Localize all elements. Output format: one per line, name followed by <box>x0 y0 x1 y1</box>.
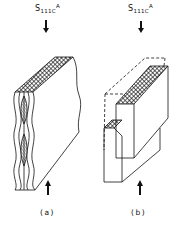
arrow-down-icon-b <box>138 21 144 33</box>
stress-superscript-b: A <box>149 3 153 9</box>
stress-subscript-b: 111C <box>133 8 149 14</box>
panel-b <box>104 21 168 195</box>
wavy-strip-outer-right <box>32 92 35 190</box>
stress-superscript-a: A <box>56 3 60 9</box>
stress-label-a: S111CA <box>35 3 60 14</box>
arrow-up-icon-b <box>137 180 143 195</box>
diagram-canvas <box>0 0 180 226</box>
block-front-face <box>116 104 134 158</box>
hatched-step-face-b <box>104 120 122 128</box>
arrow-up-icon-a <box>45 180 51 195</box>
hatched-top-face-b <box>116 66 168 104</box>
stress-label-b: S111CA <box>128 3 153 14</box>
panel-a <box>14 20 81 195</box>
caption-b: (b) <box>131 208 146 217</box>
arrow-down-icon-a <box>43 20 49 33</box>
hatched-top-face-a <box>15 57 73 92</box>
lower-block-outline <box>104 128 160 182</box>
caption-a: (a) <box>40 208 55 217</box>
stress-subscript-a: 111C <box>40 8 56 14</box>
wavy-strip-outer-left <box>14 92 16 190</box>
